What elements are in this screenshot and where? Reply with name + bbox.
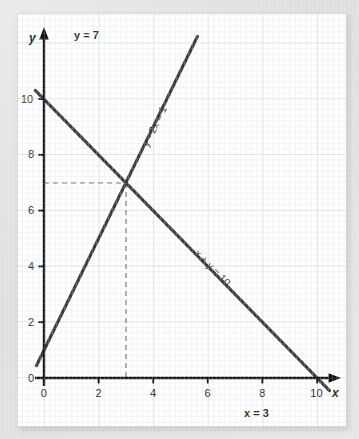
x-tick-label-2: 2 bbox=[95, 388, 101, 399]
line-y-minus-2x-1 bbox=[36, 37, 197, 366]
graph-paper-card: 0 2 4 6 8 10 0 2 4 6 8 10 y x y = 7 x = … bbox=[17, 13, 347, 427]
annotation-y-equals-7: y = 7 bbox=[74, 30, 99, 41]
y-axis bbox=[39, 27, 49, 386]
coordinate-plot bbox=[18, 14, 346, 426]
x-tick-label-6: 6 bbox=[205, 388, 211, 399]
x-tick-label-10: 10 bbox=[310, 388, 322, 399]
guide-lines bbox=[44, 183, 126, 378]
y-tick-label-2: 2 bbox=[28, 317, 34, 328]
y-tick-label-4: 4 bbox=[28, 261, 34, 272]
y-tick-label-10: 10 bbox=[21, 94, 33, 105]
x-tick-label-0: 0 bbox=[41, 388, 47, 399]
y-tick-label-0: 0 bbox=[28, 373, 34, 384]
y-tick-label-6: 6 bbox=[28, 205, 34, 216]
y-axis-name: y bbox=[29, 32, 36, 44]
y-tick-label-8: 8 bbox=[28, 149, 34, 160]
screenshot-root: 0 2 4 6 8 10 0 2 4 6 8 10 y x y = 7 x = … bbox=[0, 0, 359, 439]
x-tick-label-4: 4 bbox=[150, 388, 156, 399]
x-tick-label-8: 8 bbox=[259, 388, 265, 399]
x-axis-name: x bbox=[332, 387, 339, 399]
line-x-plus-y-10 bbox=[35, 90, 329, 390]
annotation-x-equals-3: x = 3 bbox=[244, 408, 269, 419]
x-axis bbox=[35, 373, 341, 383]
